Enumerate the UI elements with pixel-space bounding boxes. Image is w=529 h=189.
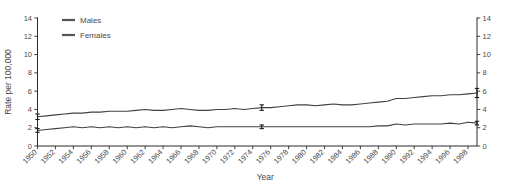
line-chart: 0022446688101012121414195019521954195619… — [0, 0, 529, 189]
series-line-males — [38, 93, 478, 117]
y-tick-label-right: 0 — [483, 142, 487, 151]
y-tick-label-left: 4 — [28, 105, 32, 114]
x-tick-label: 1968 — [182, 148, 200, 166]
y-tick-label-right: 14 — [483, 14, 491, 23]
y-tick-label-left: 2 — [28, 123, 32, 132]
legend-label-males: Males — [80, 16, 101, 25]
x-tick-label: 1990 — [380, 148, 398, 166]
y-tick-label-right: 4 — [483, 105, 487, 114]
x-tick-label: 1978 — [272, 148, 290, 166]
x-tick-label: 1966 — [164, 148, 182, 166]
x-tick-label: 1950 — [21, 148, 39, 166]
x-tick-label: 1996 — [433, 148, 451, 166]
y-tick-label-right: 2 — [483, 123, 487, 132]
x-tick-label: 1952 — [39, 148, 57, 166]
x-tick-label: 1994 — [415, 148, 433, 166]
x-tick-label: 1980 — [290, 148, 308, 166]
y-tick-label-left: 6 — [28, 87, 32, 96]
x-tick-label: 1956 — [75, 148, 93, 166]
y-tick-label-right: 8 — [483, 68, 487, 77]
x-tick-label: 1954 — [57, 148, 75, 166]
x-axis-title: Year — [257, 172, 274, 182]
x-tick-label: 1974 — [236, 148, 254, 166]
y-tick-label-left: 8 — [28, 68, 32, 77]
x-tick-label: 1988 — [362, 148, 380, 166]
x-tick-label: 1976 — [254, 148, 272, 166]
x-tick-label: 1992 — [397, 148, 415, 166]
x-tick-label: 1962 — [128, 148, 146, 166]
x-tick-label: 1964 — [146, 148, 164, 166]
series-line-females — [38, 122, 478, 130]
y-axis-title: Rate per 100,000 — [3, 49, 13, 115]
x-tick-label: 1982 — [308, 148, 326, 166]
y-tick-label-right: 6 — [483, 87, 487, 96]
x-tick-label: 1972 — [218, 148, 236, 166]
y-tick-label-left: 14 — [24, 14, 32, 23]
x-tick-label: 1984 — [326, 148, 344, 166]
chart-canvas: 0022446688101012121414195019521954195619… — [0, 0, 529, 189]
x-tick-label: 1970 — [200, 148, 218, 166]
y-tick-label-right: 12 — [483, 32, 491, 41]
x-tick-label: 1958 — [93, 148, 111, 166]
x-tick-label: 1960 — [110, 148, 128, 166]
x-tick-label: 1986 — [344, 148, 362, 166]
x-tick-label: 1998 — [451, 148, 469, 166]
y-tick-label-left: 10 — [24, 50, 32, 59]
y-tick-label-right: 10 — [483, 50, 491, 59]
y-tick-label-left: 12 — [24, 32, 32, 41]
legend-label-females: Females — [80, 31, 111, 40]
